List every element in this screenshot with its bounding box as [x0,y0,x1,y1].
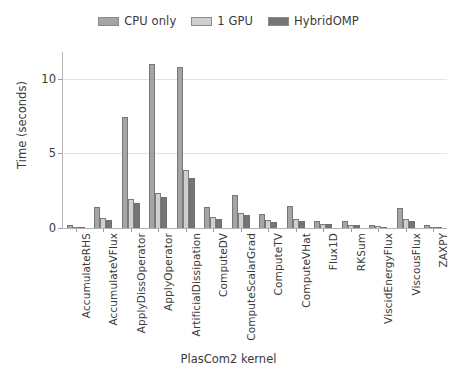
x-tick-mark [378,229,379,232]
x-tick-label: AccumulateRHS [80,233,92,318]
bar-group [117,52,145,228]
x-tick-label: ComputeScalarGrad [245,233,257,341]
bar-group [255,52,283,228]
bar-group [145,52,173,228]
bar [381,227,387,228]
bar-group [90,52,118,228]
x-tick-mark [241,229,242,232]
bar-group [392,52,420,228]
x-tick-mark [406,229,407,232]
bar-chart-figure: CPU only 1 GPU HybridOMP 0510 Time (seco… [0,0,457,383]
x-tick-label: AccumulateVFlux [107,233,119,326]
legend-label-1-gpu: 1 GPU [217,14,253,28]
legend-label-cpu-only: CPU only [124,14,176,28]
bars-layer [62,52,447,228]
legend-label-hybridomp: HybridOMP [294,14,359,28]
x-tick-mark [76,229,77,232]
bar [271,222,277,228]
x-tick-label: ComputeTV [272,233,284,295]
x-tick-label: ComputeDV [217,233,229,297]
legend-swatch-1-gpu [191,17,212,26]
legend-entry-0: CPU only [98,14,176,28]
x-tick-mark [268,229,269,232]
bar [436,227,442,228]
x-axis-tick-labels: AccumulateRHSAccumulateVFluxApplyDissOpe… [62,229,447,341]
x-tick-label: ZAXPY [437,233,449,268]
y-tick-label: 5 [49,146,56,160]
legend-entry-2: HybridOMP [268,14,359,28]
bar-group [310,52,338,228]
x-tick-label: ArtificialDissipation [190,233,202,336]
bar [354,225,360,228]
x-tick-mark [351,229,352,232]
bar [299,221,305,228]
bar-group [337,52,365,228]
x-tick-mark [131,229,132,232]
x-tick-mark [296,229,297,232]
bar [79,227,85,228]
y-tick-label: 10 [41,72,56,86]
bar-group [420,52,448,228]
x-tick-label: Flux1D [327,233,339,270]
x-tick-mark [158,229,159,232]
x-tick-label: RKSum [355,233,367,271]
bar [189,178,195,228]
x-tick-label: ApplyDissOperator [135,233,147,333]
bar-group [172,52,200,228]
y-axis-title: Time (seconds) [15,55,29,195]
x-tick-label: ViscousFlux [410,233,422,296]
bar [106,220,112,229]
x-tick-mark [433,229,434,232]
x-tick-label: ComputeVHat [300,233,312,308]
bar-group [365,52,393,228]
bar [409,221,415,228]
bar [326,224,332,228]
bar [216,219,222,228]
bar [244,215,250,228]
bar [161,197,167,228]
legend-entry-1: 1 GPU [191,14,253,28]
bar [134,203,140,228]
bar-group [200,52,228,228]
bar-group [282,52,310,228]
x-tick-mark [186,229,187,232]
x-tick-label: ViscidEnergyFlux [382,233,394,324]
legend-swatch-hybridomp [268,17,289,26]
x-tick-mark [213,229,214,232]
x-tick-mark [323,229,324,232]
chart-legend: CPU only 1 GPU HybridOMP [0,14,457,28]
bar-group [227,52,255,228]
x-axis-title: PlasCom2 kernel [0,352,457,366]
x-tick-label: ApplyOperator [162,233,174,311]
y-tick-label: 0 [49,221,56,235]
legend-swatch-cpu-only [98,17,119,26]
x-tick-mark [103,229,104,232]
bar-group [62,52,90,228]
